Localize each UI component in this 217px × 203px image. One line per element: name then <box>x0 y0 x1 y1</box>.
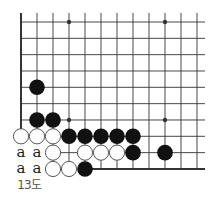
white-stone <box>29 129 44 144</box>
star-point <box>163 20 167 24</box>
black-stone <box>125 145 141 161</box>
black-stone <box>45 112 61 128</box>
white-stone <box>77 145 92 160</box>
white-stone <box>13 129 28 144</box>
board-grid <box>21 13 205 169</box>
white-stone <box>45 145 60 160</box>
black-stone <box>29 112 45 128</box>
black-stone <box>29 80 45 96</box>
white-stone <box>93 145 108 160</box>
move-labels: aaaa <box>17 143 42 177</box>
star-point <box>67 20 71 24</box>
diagram-caption: 13도 <box>12 175 46 192</box>
black-stone <box>125 129 141 145</box>
star-point <box>163 118 167 122</box>
black-stone <box>93 129 109 145</box>
label-a: a <box>33 143 42 161</box>
white-stone <box>45 129 60 144</box>
black-stone <box>77 161 93 177</box>
black-stone <box>61 129 77 145</box>
go-board: aaaa <box>0 0 217 203</box>
star-point <box>67 118 71 122</box>
black-stone <box>109 129 125 145</box>
white-stone <box>61 161 76 176</box>
label-a: a <box>17 143 26 161</box>
white-stone <box>109 145 124 160</box>
white-stone <box>45 161 60 176</box>
black-stone <box>157 145 173 161</box>
black-stone <box>77 129 93 145</box>
